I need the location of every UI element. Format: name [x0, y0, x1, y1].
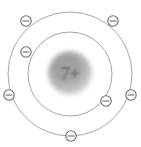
electron-4 — [66, 131, 76, 141]
electron-5 — [126, 90, 136, 100]
electron-1 — [21, 16, 31, 26]
atom-diagram-canvas: 7+ — [0, 0, 141, 147]
atom-diagram: 7+ — [0, 0, 141, 147]
electron-2 — [21, 47, 31, 57]
nucleus-charge-label: 7+ — [60, 63, 79, 84]
electron-6 — [108, 16, 118, 26]
electron-7 — [101, 96, 111, 106]
electron-3 — [4, 90, 14, 100]
